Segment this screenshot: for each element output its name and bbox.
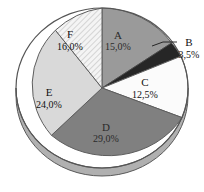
slice-label-c-value: 12,5% <box>132 89 158 100</box>
slice-label-b-value: 3,5% <box>179 49 200 60</box>
pie-chart-svg: A 15,0% B 3,5% C 12,5% D 29,0% E 24,0% F… <box>0 0 204 192</box>
slice-label-d-name: D <box>102 121 110 133</box>
slice-label-d-value: 29,0% <box>93 133 119 144</box>
slice-label-c-name: C <box>141 76 148 88</box>
slice-label-b-name: B <box>185 36 192 48</box>
pie-chart: A 15,0% B 3,5% C 12,5% D 29,0% E 24,0% F… <box>0 0 204 192</box>
slice-label-a-name: A <box>114 29 122 41</box>
slice-label-e-value: 24,0% <box>36 99 62 110</box>
slice-label-f-name: F <box>67 28 73 40</box>
slice-label-e-name: E <box>46 86 53 98</box>
slice-label-f-value: 16,0% <box>57 41 83 52</box>
slice-label-a-value: 15,0% <box>105 41 131 52</box>
